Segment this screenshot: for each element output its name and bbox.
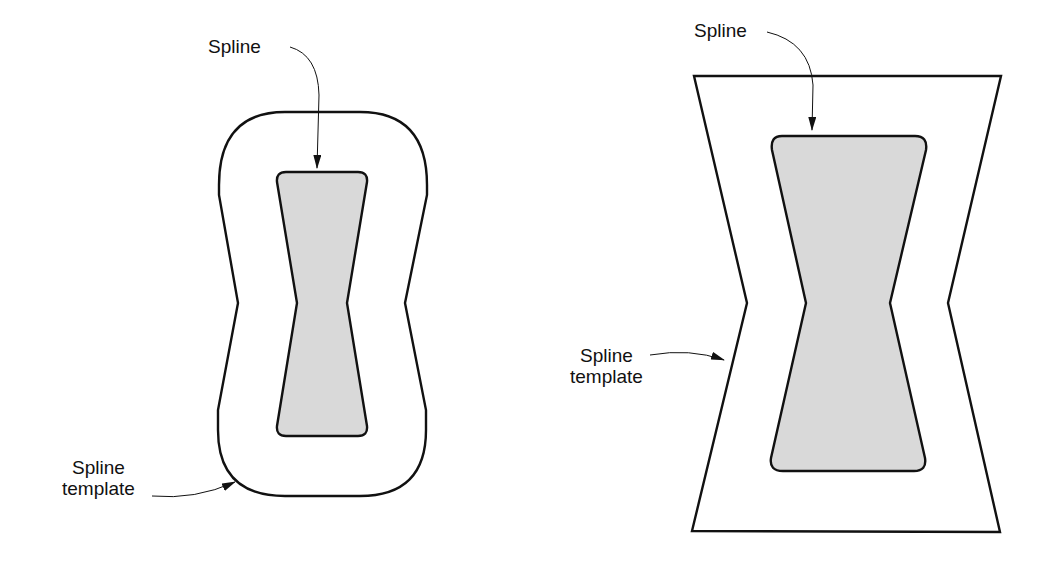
right-template-label-line2: template	[570, 366, 643, 387]
diagram-canvas	[0, 0, 1054, 575]
left-template-label-line1: Spline	[62, 457, 135, 478]
left-spline-label-text: Spline	[208, 36, 261, 57]
left-template-label-line2: template	[62, 478, 135, 499]
right-template-pointer-arrow	[650, 352, 724, 360]
right-template-label-line1: Spline	[570, 345, 643, 366]
left-figure	[152, 47, 427, 497]
right-template-label: Spline template	[570, 345, 643, 387]
right-spline-label-text: Spline	[694, 20, 747, 41]
left-template-pointer-arrow	[152, 482, 235, 497]
left-template-label: Spline template	[62, 457, 135, 499]
left-spline-label: Spline	[208, 36, 261, 57]
right-spline-label: Spline	[694, 20, 747, 41]
right-figure	[650, 32, 1001, 532]
